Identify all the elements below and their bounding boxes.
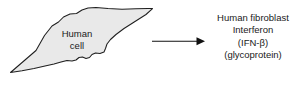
product-text-block: Human fibroblast Interferon (IFN-β) (gly…: [204, 12, 302, 61]
product-line-4: (glycoprotein): [204, 49, 302, 61]
product-line-2: Interferon: [204, 24, 302, 36]
product-line-1: Human fibroblast: [204, 12, 302, 24]
human-cell-label: Human cell: [44, 28, 110, 51]
product-line-3: (IFN-β): [204, 37, 302, 49]
